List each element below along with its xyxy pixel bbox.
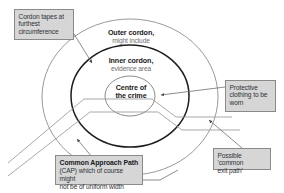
callout-common-approach-path: Common Approach Path (CAP) which of cour… xyxy=(55,155,143,185)
outer-cordon-label: Outer cordon, might include xyxy=(92,29,170,44)
outer-cordon-label-line1: Outer cordon, xyxy=(92,29,170,37)
callout-protective-clothing-line1: Protective xyxy=(230,84,273,92)
inner-cordon-label-line2: evidence area xyxy=(96,65,166,72)
callout-cordon-tapes-line3: circumference xyxy=(19,28,71,36)
callout-exit-path: Possible 'common exit path' xyxy=(213,148,271,170)
callout-common-approach-path-title: Common Approach Path xyxy=(60,159,140,167)
callout-exit-path-line2: exit path' xyxy=(218,167,268,175)
centre-of-crime-label-line2: the crime xyxy=(103,92,159,100)
inner-cordon-label: Inner cordon, evidence area xyxy=(96,57,166,72)
crime-scene-cordon-diagram: Outer cordon, might include Inner cordon… xyxy=(0,0,284,193)
inner-cordon-label-line1: Inner cordon, xyxy=(96,57,166,65)
leader-line-protective-clothing xyxy=(161,87,225,95)
callout-cordon-tapes-line1: Cordon tapes at xyxy=(19,13,71,21)
callout-protective-clothing-line3: worn xyxy=(230,99,273,107)
callout-cordon-tapes-line2: furthest xyxy=(19,20,71,28)
leader-line-cap-box-stub xyxy=(143,170,178,180)
callout-exit-path-line1: Possible 'common xyxy=(218,152,268,168)
callout-protective-clothing-line2: clothing to be xyxy=(230,91,273,99)
leader-line-exit-path xyxy=(209,120,242,148)
callout-common-approach-path-line2: not be of uniform width xyxy=(60,183,140,191)
callout-common-approach-path-line1: (CAP) which of course might xyxy=(60,167,140,183)
leader-line-cordon-tapes xyxy=(74,34,92,63)
callout-protective-clothing: Protective clothing to be worn xyxy=(225,80,276,112)
centre-of-crime-label: Centre of the crime xyxy=(103,84,159,100)
callout-cordon-tapes: Cordon tapes at furthest circumference xyxy=(14,9,74,40)
outer-cordon-label-line2: might include xyxy=(92,37,170,44)
